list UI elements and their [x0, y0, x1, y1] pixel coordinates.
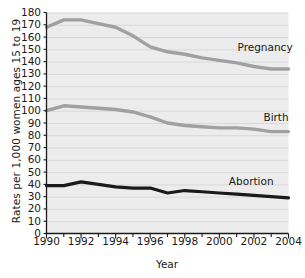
x-tick-label: 1994	[102, 236, 129, 247]
x-axis-title: Year	[46, 258, 288, 270]
x-tick-label: 1996	[137, 236, 164, 247]
series-label-birth: Birth	[263, 111, 288, 123]
x-tick-label: 1992	[68, 236, 95, 247]
x-tick-label: 1990	[33, 236, 60, 247]
x-tick-label: 2002	[241, 236, 268, 247]
x-tick-label: 2000	[206, 236, 233, 247]
series-label-abortion: Abortion	[229, 175, 274, 187]
x-tick-label: 1998	[171, 236, 198, 247]
series-label-pregnancy: Pregnancy	[238, 41, 293, 53]
x-tick-label: 2004	[275, 236, 302, 247]
chart-container: Rates per 1,000 women ages 15 to 19 1801…	[0, 0, 305, 278]
